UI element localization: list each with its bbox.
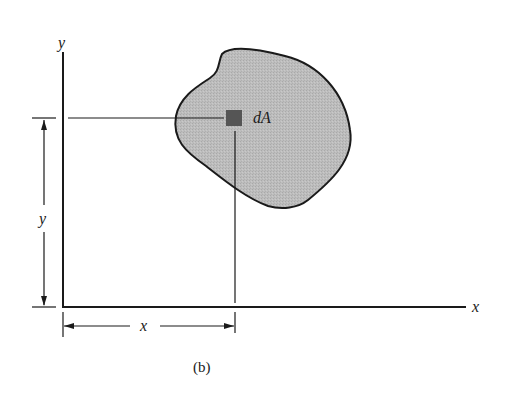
element-label-da: dA <box>253 109 271 126</box>
y-distance-label: y <box>37 210 47 228</box>
x-distance-label: x <box>139 317 147 334</box>
figure-caption: (b) <box>193 359 211 376</box>
x-dimension-arrow-left-icon <box>64 323 74 329</box>
diagram-canvas: y x y x dA (b) <box>0 0 510 394</box>
x-axis-label: x <box>471 298 479 315</box>
area-region <box>175 49 350 208</box>
y-dimension-arrow-up-icon <box>41 120 47 130</box>
x-dimension-arrow-right-icon <box>224 323 234 329</box>
y-axis-label: y <box>56 34 66 52</box>
y-dimension-arrow-down-icon <box>41 296 47 306</box>
area-element-da <box>226 110 242 126</box>
